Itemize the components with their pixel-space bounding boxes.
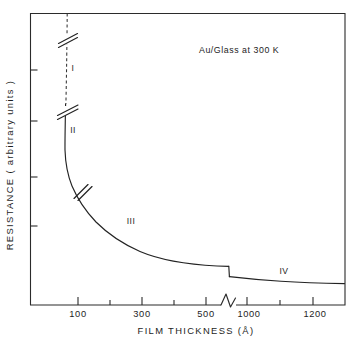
x-tick-label-500: 500 xyxy=(197,309,214,319)
x-axis-ticks xyxy=(78,297,313,305)
resistance-vs-thickness-chart: 100 300 500 1000 1200 FILM THICKNESS (Å)… xyxy=(0,0,355,344)
resistance-step-discontinuity xyxy=(229,266,230,276)
curve-break-upper xyxy=(59,34,78,48)
resistance-curve-solid xyxy=(65,104,229,266)
x-tick-label-1200: 1200 xyxy=(303,309,326,319)
curve-break-middle xyxy=(58,105,79,120)
region-4-tail-curve xyxy=(229,277,344,284)
region-1-dashed-curve xyxy=(66,14,67,105)
figure-container: 100 300 500 1000 1200 FILM THICKNESS (Å)… xyxy=(0,0,355,344)
region-label-3: III xyxy=(127,216,135,226)
region-labels: I II III IV xyxy=(70,63,288,276)
break-lower-slash-2 xyxy=(78,187,92,201)
y-axis-title: RESISTANCE ( arbitrary units ) xyxy=(4,80,15,251)
plot-frame xyxy=(31,14,346,306)
curve-break-lower xyxy=(74,185,92,201)
x-axis-break-symbol xyxy=(221,294,236,307)
x-tick-label-1000: 1000 xyxy=(237,309,260,319)
y-axis-ticks xyxy=(31,70,38,226)
break-lower-slash-1 xyxy=(74,185,88,199)
region-label-1: I xyxy=(72,63,75,73)
x-axis-title: FILM THICKNESS (Å) xyxy=(138,325,255,336)
region-label-4: IV xyxy=(280,266,289,276)
region-label-2: II xyxy=(70,125,76,135)
x-tick-label-100: 100 xyxy=(69,309,86,319)
curve-break-marks xyxy=(58,34,93,201)
sample-annotation: Au/Glass at 300 K xyxy=(199,45,279,55)
x-tick-labels: 100 300 500 1000 1200 xyxy=(69,309,326,319)
x-tick-label-300: 300 xyxy=(133,309,150,319)
frame-border xyxy=(31,14,346,306)
